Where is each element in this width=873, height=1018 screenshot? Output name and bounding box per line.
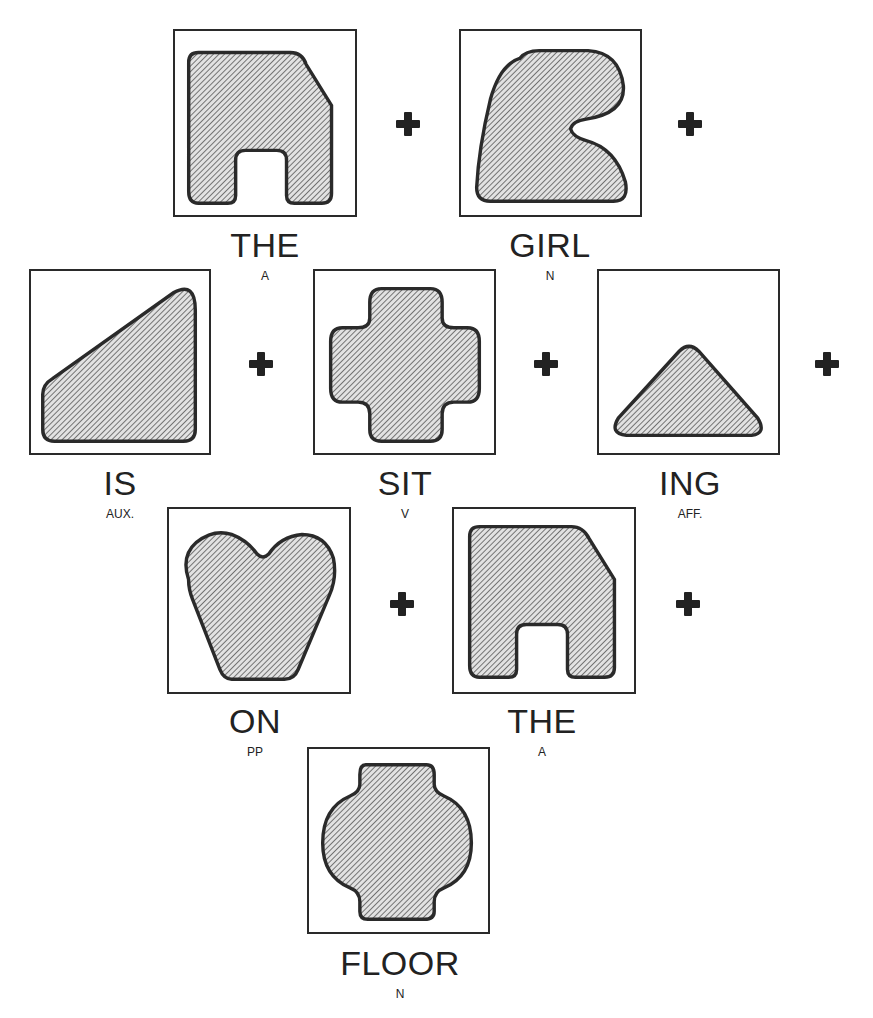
part-of-speech-label: N <box>335 988 465 1000</box>
card-frame <box>307 747 490 934</box>
part-of-speech-label: V <box>350 508 460 520</box>
plus-icon <box>676 592 700 616</box>
plus-icon <box>249 352 273 376</box>
plus-icon <box>396 112 420 136</box>
part-of-speech-label: AFF. <box>635 508 745 520</box>
part-of-speech-label: N <box>490 270 610 282</box>
plus-icon <box>678 112 702 136</box>
card-frame <box>313 269 496 455</box>
word-label: ING <box>635 466 745 500</box>
card-frame <box>459 29 642 217</box>
card-frame <box>597 269 780 455</box>
word-label: ON <box>205 704 305 738</box>
wedge-shape-icon <box>31 271 209 453</box>
word-label: GIRL <box>490 228 610 262</box>
word-label: SIT <box>350 466 460 500</box>
hook-shape-icon <box>461 31 640 215</box>
heart-trapezoid-shape-icon <box>169 509 349 692</box>
part-of-speech-label: A <box>490 746 594 758</box>
word-label: FLOOR <box>335 946 465 980</box>
plus-icon <box>534 352 558 376</box>
card-frame <box>452 507 636 694</box>
card-frame <box>167 507 351 694</box>
word-label: THE <box>490 704 594 738</box>
triangle-shape-icon <box>599 271 778 453</box>
rounded-cross-shape-icon <box>309 749 488 932</box>
part-of-speech-label: A <box>213 270 317 282</box>
word-label: IS <box>70 466 170 500</box>
cross-shape-icon <box>315 271 494 453</box>
plus-icon <box>815 352 839 376</box>
house-arch-shape-icon <box>454 509 634 692</box>
part-of-speech-label: AUX. <box>70 508 170 520</box>
plus-icon <box>390 592 414 616</box>
word-label: THE <box>213 228 317 262</box>
card-frame <box>29 269 211 455</box>
card-frame <box>173 29 357 217</box>
part-of-speech-label: PP <box>205 746 305 758</box>
house-arch-shape-icon <box>175 31 355 215</box>
